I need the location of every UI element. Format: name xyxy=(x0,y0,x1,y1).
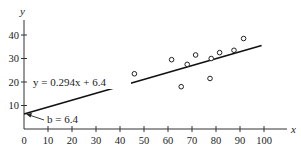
data-point xyxy=(169,57,174,62)
y-tick-label: 10 xyxy=(9,100,20,111)
x-tick-label: 30 xyxy=(91,135,102,146)
x-tick-label: 50 xyxy=(139,135,150,146)
intercept-arrow-shaft xyxy=(29,115,44,120)
intercept-label: b = 6.4 xyxy=(47,113,78,125)
data-point xyxy=(193,53,198,58)
x-tick-label: 90 xyxy=(235,135,246,146)
data-point xyxy=(241,36,246,41)
x-tick-label: 80 xyxy=(211,135,222,146)
x-tick-label: 10 xyxy=(43,135,54,146)
x-tick-label: 0 xyxy=(21,135,26,146)
x-tick-label: 100 xyxy=(256,135,272,146)
data-point xyxy=(132,71,137,76)
x-tick-label: 70 xyxy=(187,135,198,146)
data-point xyxy=(179,84,184,89)
x-tick-label: 40 xyxy=(115,135,126,146)
annotations: y = 0.294x + 6.4b = 6.4 xyxy=(26,76,131,125)
data-point xyxy=(209,56,214,61)
equation-label: y = 0.294x + 6.4 xyxy=(33,76,106,88)
scatter-plot: xy 010203040506070809010010203040 y = 0.… xyxy=(0,0,301,159)
data-points xyxy=(132,36,246,89)
data-point xyxy=(185,62,190,67)
x-tick-label: 60 xyxy=(163,135,174,146)
y-tick-label: 20 xyxy=(9,77,20,88)
y-axis-label: y xyxy=(19,5,25,17)
y-tick-label: 40 xyxy=(9,30,20,41)
x-tick-label: 20 xyxy=(67,135,78,146)
data-point xyxy=(232,48,237,53)
y-tick-label: 30 xyxy=(9,53,20,64)
data-point xyxy=(217,50,222,55)
data-point xyxy=(208,76,213,81)
x-axis-label: x xyxy=(290,123,296,135)
